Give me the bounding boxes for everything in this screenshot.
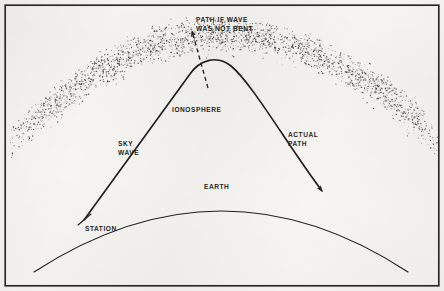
ionosphere-diagram-figure: PATH IF WAVE WAS NOT BENT IONOSPHERE SKY… — [0, 0, 444, 291]
diagram-canvas — [0, 0, 444, 291]
earth-curve — [34, 211, 408, 272]
label-earth: EARTH — [204, 182, 229, 191]
label-sky-wave: SKY WAVE — [118, 139, 139, 158]
ionosphere-band — [10, 17, 439, 158]
label-station: STATION — [85, 224, 117, 233]
label-ionosphere: IONOSPHERE — [172, 105, 221, 114]
label-path-if-wave-was-not-bent: PATH IF WAVE WAS NOT BENT — [196, 15, 253, 34]
label-actual-path: ACTUAL PATH — [288, 130, 318, 149]
